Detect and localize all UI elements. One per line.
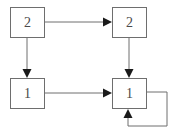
node-bottom-right[interactable]: 1: [112, 78, 147, 109]
arrowhead-into-top-right: [103, 18, 112, 27]
node-bottom-left[interactable]: 1: [10, 78, 45, 109]
arrowhead-into-bottom-right-left: [103, 89, 112, 98]
node-top-left-label: 2: [24, 16, 31, 30]
node-top-left[interactable]: 2: [10, 7, 45, 38]
node-bottom-right-label: 1: [126, 87, 133, 101]
arrowhead-into-bottom-right-top: [125, 69, 134, 78]
node-top-right[interactable]: 2: [112, 7, 147, 38]
arrowhead-into-bottom-left: [23, 69, 32, 78]
flow-diagram: 2 2 1 1: [0, 0, 178, 133]
node-top-right-label: 2: [126, 16, 133, 30]
node-bottom-left-label: 1: [24, 87, 31, 101]
arrowhead-self-loop-into-bottom-right: [124, 109, 133, 118]
